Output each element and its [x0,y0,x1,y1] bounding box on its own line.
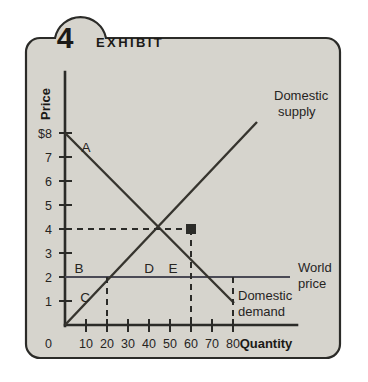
x-tick-60: 60 [184,337,198,351]
x-tick-40: 40 [142,337,156,351]
region-label-a: A [81,140,90,155]
supply-label-line2: supply [278,104,316,119]
x-tick-50: 50 [163,337,177,351]
x-tick-20: 20 [100,337,114,351]
equilibrium-point-marker [186,224,196,234]
region-label-c: C [80,290,90,305]
region-label-e: E [168,261,177,276]
y-axis-title: Price [38,88,53,120]
exhibit-label: EXHIBIT [96,35,164,50]
x-tick-10: 10 [79,337,93,351]
x-tick-30: 30 [121,337,135,351]
region-label-b: B [74,261,83,276]
y-tick-4: 4 [45,223,52,237]
y-tick-1: 1 [45,295,52,309]
x-tick-80: 80 [226,337,240,351]
y-tick-8: $8 [38,127,52,141]
demand-label-line2: demand [238,304,285,319]
y-tick-3: 3 [45,247,52,261]
world-price-label-line1: World [298,260,332,275]
demand-label-line1: Domestic [238,288,293,303]
x-tick-70: 70 [205,337,219,351]
y-tick-7: 7 [45,151,52,165]
y-tick-2: 2 [45,271,52,285]
world-price-label-line2: price [298,276,326,291]
x-axis-title: Quantity [240,336,293,351]
y-tick-5: 5 [45,199,52,213]
exhibit-panel: 4 EXHIBIT Price $8 7 6 5 4 3 2 1 0 [0,0,368,382]
supply-label-line1: Domestic [274,88,329,103]
exhibit-figure: 4 EXHIBIT Price $8 7 6 5 4 3 2 1 0 [0,0,368,382]
exhibit-number: 4 [57,21,74,54]
y-tick-6: 6 [45,175,52,189]
y-tick-0: 0 [45,337,52,351]
panel-background [26,17,340,358]
region-label-d: D [144,261,154,276]
